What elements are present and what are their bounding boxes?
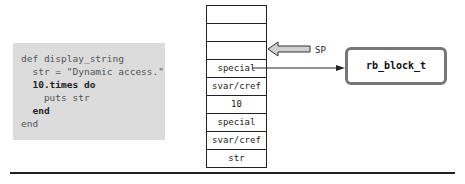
sp-label: SP xyxy=(315,45,326,55)
arrowhead-icon xyxy=(336,65,345,71)
sp-arrow-icon xyxy=(268,42,310,56)
rb-block-t-box: rb_block_t xyxy=(345,47,447,85)
arrows-layer xyxy=(0,0,465,184)
horizontal-rule xyxy=(10,172,455,174)
